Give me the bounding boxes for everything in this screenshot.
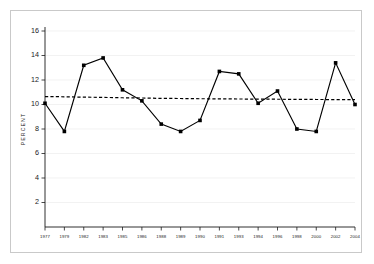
trend-line-series <box>45 97 355 100</box>
svg-text:8: 8 <box>35 124 39 133</box>
y-axis-title: PERCENT <box>20 113 26 146</box>
svg-text:1989: 1989 <box>176 234 186 239</box>
y-tick-labels: 246810121416 <box>31 26 39 207</box>
svg-text:2000: 2000 <box>311 234 321 239</box>
svg-text:1988: 1988 <box>156 234 166 239</box>
svg-text:1998: 1998 <box>292 234 302 239</box>
svg-text:1977: 1977 <box>40 234 50 239</box>
svg-text:1990: 1990 <box>195 234 205 239</box>
svg-text:6: 6 <box>35 148 39 157</box>
data-point-markers <box>43 56 357 133</box>
svg-text:1986: 1986 <box>137 234 147 239</box>
y-gridlines <box>45 31 355 203</box>
svg-text:1983: 1983 <box>98 234 108 239</box>
svg-text:1994: 1994 <box>253 234 263 239</box>
svg-text:1993: 1993 <box>234 234 244 239</box>
svg-text:2002: 2002 <box>331 234 341 239</box>
svg-text:16: 16 <box>31 26 39 35</box>
chart-frame: 246810121416 197719791982198319851986198… <box>10 10 362 253</box>
line-chart: 246810121416 197719791982198319851986198… <box>11 11 363 254</box>
y-tick-marks <box>42 31 46 203</box>
svg-text:1996: 1996 <box>273 234 283 239</box>
svg-text:2: 2 <box>35 197 39 206</box>
svg-text:14: 14 <box>31 50 39 59</box>
svg-text:PERCENT: PERCENT <box>20 113 26 146</box>
svg-text:1991: 1991 <box>214 234 224 239</box>
svg-text:2004: 2004 <box>350 234 360 239</box>
svg-text:1982: 1982 <box>79 234 89 239</box>
svg-text:10: 10 <box>31 99 39 108</box>
svg-text:12: 12 <box>31 75 39 84</box>
svg-text:1985: 1985 <box>118 234 128 239</box>
svg-text:4: 4 <box>35 173 39 182</box>
x-tick-labels: 1977197919821983198519861988198919901991… <box>40 234 360 239</box>
svg-text:1979: 1979 <box>59 234 69 239</box>
x-tick-marks <box>45 227 355 231</box>
